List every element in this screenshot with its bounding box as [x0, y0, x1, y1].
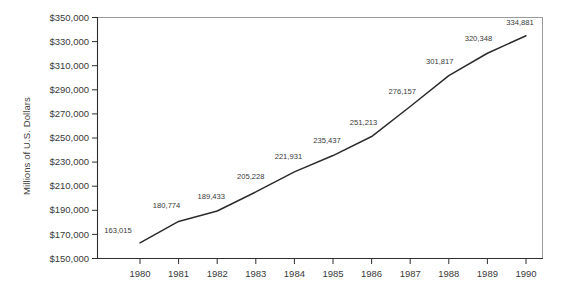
y-tick-label: $150,000 — [49, 253, 89, 264]
y-axis-title: Millions of U.S. Dollars — [21, 97, 32, 195]
data-point-label: 320,348 — [465, 34, 492, 43]
data-point-label: 163,015 — [104, 226, 131, 235]
chart-canvas: Millions of U.S. Dollars $150,000 $170,0… — [0, 0, 576, 293]
data-point-label: 334,881 — [506, 18, 533, 27]
data-point-labels: 163,015180,774189,433205,228221,931235,4… — [104, 18, 533, 235]
y-tick-label: $250,000 — [49, 132, 89, 143]
x-tick-label: 1988 — [438, 268, 459, 279]
x-tick-label: 1982 — [207, 268, 228, 279]
y-tick-label: $330,000 — [49, 36, 89, 47]
x-tick-label: 1985 — [322, 268, 343, 279]
data-point-label: 189,433 — [197, 192, 224, 201]
y-tick-label: $350,000 — [49, 12, 89, 23]
x-tick-label: 1990 — [515, 268, 536, 279]
x-tick-label: 1983 — [245, 268, 266, 279]
y-tick-label: $230,000 — [49, 156, 89, 167]
data-point-label: 276,157 — [388, 87, 415, 96]
x-axis-ticks: 1980 1981 1982 1983 1984 1985 1986 1987 … — [129, 259, 536, 280]
line-chart: Millions of U.S. Dollars $150,000 $170,0… — [0, 0, 576, 293]
x-tick-label: 1981 — [168, 268, 189, 279]
x-tick-label: 1989 — [477, 268, 498, 279]
y-axis-ticks: $150,000 $170,000 $190,000 $210,000 $230… — [49, 12, 97, 264]
data-point-label: 205,228 — [237, 172, 264, 181]
x-tick-label: 1984 — [284, 268, 305, 279]
y-tick-label: $270,000 — [49, 108, 89, 119]
data-point-label: 235,437 — [313, 136, 340, 145]
y-tick-label: $290,000 — [49, 84, 89, 95]
y-tick-label: $190,000 — [49, 204, 89, 215]
x-tick-label: 1986 — [361, 268, 382, 279]
y-tick-label: $210,000 — [49, 180, 89, 191]
y-tick-label: $310,000 — [49, 60, 89, 71]
data-point-label: 180,774 — [153, 201, 180, 210]
data-point-label: 251,213 — [350, 118, 377, 127]
data-point-label: 301,817 — [426, 57, 453, 66]
y-tick-label: $170,000 — [49, 229, 89, 240]
x-tick-label: 1987 — [400, 268, 421, 279]
x-tick-label: 1980 — [129, 268, 150, 279]
data-point-label: 221,931 — [275, 152, 302, 161]
